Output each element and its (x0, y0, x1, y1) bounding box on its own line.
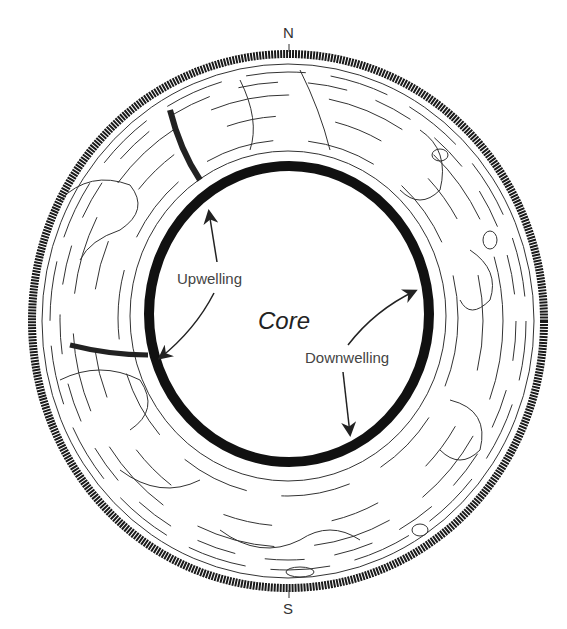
south-label: S (283, 600, 293, 617)
upwelling-plume-west (70, 345, 148, 355)
upwelling-plume-north-west (170, 110, 200, 180)
north-label: N (283, 24, 294, 41)
downwelling-label: Downwelling (305, 349, 389, 366)
upwelling-label: Upwelling (177, 270, 242, 287)
core-label: Core (258, 307, 310, 335)
